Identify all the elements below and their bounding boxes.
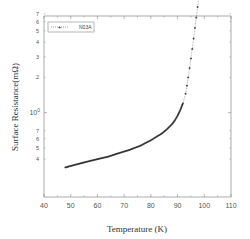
data-point-marker — [185, 93, 187, 95]
y-minor-label: 6 — [36, 19, 39, 25]
data-point-marker — [190, 58, 192, 60]
x-tick-label: 110 — [225, 202, 236, 209]
y-minor-label: 6 — [36, 136, 39, 142]
y-minor-label: 5 — [36, 145, 39, 151]
plot-border — [44, 16, 231, 197]
y-minor-label: 7 — [36, 128, 39, 134]
y-minor-label: 2 — [36, 74, 39, 80]
x-tick-label: 40 — [40, 202, 48, 209]
data-point-marker — [189, 67, 191, 69]
x-tick-label: 80 — [147, 202, 155, 209]
data-point-marker — [187, 76, 189, 78]
x-tick-label: 90 — [174, 202, 182, 209]
x-tick-label: 50 — [67, 202, 75, 209]
chart: 405060708090100110 100101654327654327654… — [0, 0, 250, 239]
data-point-marker — [191, 48, 193, 50]
data-point-marker — [197, 6, 199, 8]
data-point-marker — [193, 38, 195, 40]
data-point-marker — [186, 85, 188, 87]
y-minor-label: 5 — [36, 28, 39, 34]
y-minor-label: 3 — [36, 54, 39, 60]
legend-label: N03A — [79, 24, 92, 30]
plot-area — [44, 16, 231, 197]
x-axis-title: Temperature (K) — [107, 224, 167, 234]
data-point-marker — [195, 17, 197, 19]
x-axis: 405060708090100110 — [40, 16, 237, 209]
y-minor-label: 7 — [36, 11, 39, 17]
data-point-marker — [194, 27, 196, 29]
y-axis-title: Surface Resistance(mΩ) — [10, 63, 20, 151]
y-minor-label: 4 — [36, 39, 39, 45]
legend-marker-icon: + — [58, 24, 62, 30]
x-tick-label: 100 — [198, 202, 210, 209]
y-minor-label: 4 — [36, 156, 39, 162]
legend: + N03A — [48, 22, 94, 32]
x-tick-label: 60 — [94, 202, 102, 209]
y-major-label: 100 — [29, 107, 40, 116]
x-tick-label: 70 — [120, 202, 128, 209]
